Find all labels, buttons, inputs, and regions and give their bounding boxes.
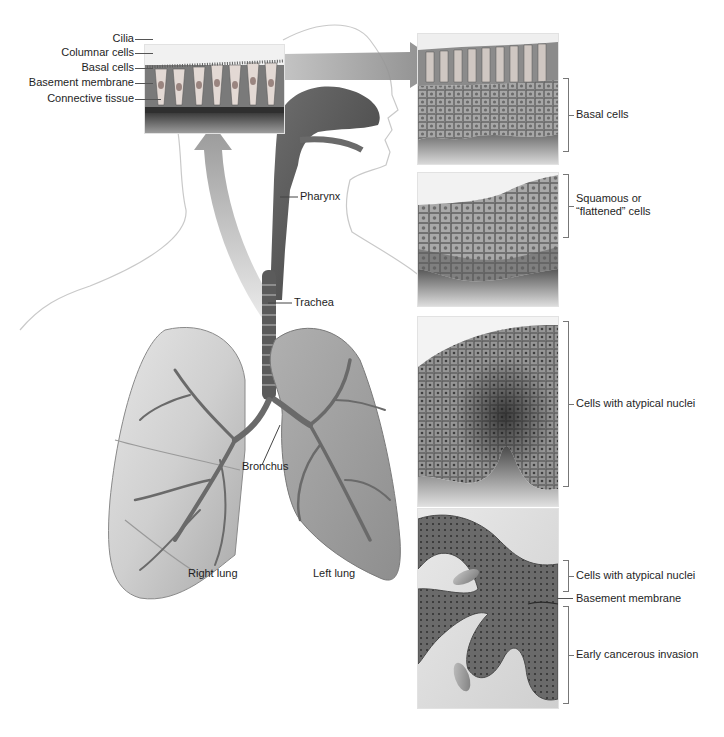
stage-2-label-line-2: “flattened” cells	[576, 205, 651, 218]
stage-2-panel	[417, 172, 559, 307]
label-left-lung: Left lung	[313, 567, 355, 580]
label-cilia: Cilia	[113, 32, 134, 45]
stage-4-label-basement-membrane: Basement membrane	[576, 592, 681, 605]
stage-1-panel	[417, 33, 559, 165]
label-pharynx: Pharynx	[300, 190, 340, 203]
label-connective-tissue: Connective tissue	[47, 92, 134, 105]
label-basement-membrane: Basement membrane	[29, 76, 134, 89]
stage-4-bracket-invasion	[563, 606, 569, 704]
stage-4-panel	[417, 508, 559, 709]
stage-1-label-basal-cells: Basal cells	[576, 108, 629, 121]
stage-2-bracket	[563, 174, 569, 238]
leader-basal-cells	[135, 68, 153, 69]
normal-epithelium-panel	[144, 44, 285, 134]
leader-cilia	[135, 39, 153, 40]
leader-basement-membrane	[135, 83, 153, 84]
stage-4-leader-basement-membrane	[557, 598, 573, 599]
label-trachea: Trachea	[294, 296, 334, 309]
stage-1-bracket	[563, 78, 569, 152]
label-basal-cells: Basal cells	[81, 61, 134, 74]
leader-columnar-cells	[135, 53, 153, 54]
stage-4-label-atypical-nuclei: Cells with atypical nuclei	[576, 569, 695, 582]
leader-connective-tissue	[135, 99, 161, 100]
stage-4-bracket-atypical	[563, 560, 569, 592]
label-columnar-cells: Columnar cells	[61, 46, 134, 59]
stage-3-panel	[417, 316, 559, 507]
stage-2-label-line-1: Squamous or	[576, 192, 641, 205]
label-bronchus: Bronchus	[242, 460, 288, 473]
label-right-lung: Right lung	[188, 567, 238, 580]
stage-3-label-atypical-nuclei: Cells with atypical nuclei	[576, 397, 695, 410]
stage-3-bracket	[563, 321, 569, 487]
stage-4-label-early-invasion: Early cancerous invasion	[576, 648, 698, 661]
